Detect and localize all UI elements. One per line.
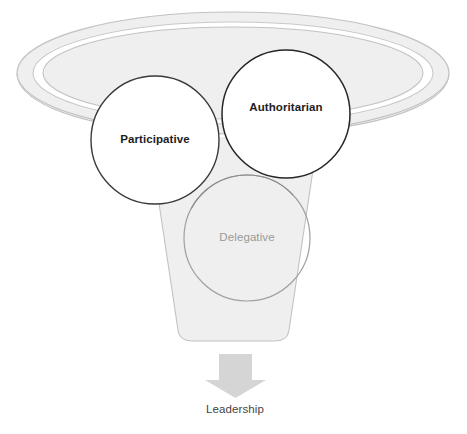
funnel-graphic [0,0,467,434]
leadership-funnel-diagram: Participative Authoritarian Delegative L… [0,0,467,434]
circle-participative[interactable] [91,76,219,204]
outcome-label-leadership: Leadership [175,403,295,415]
circle-authoritarian[interactable] [222,50,350,178]
down-arrow-icon [205,354,266,398]
